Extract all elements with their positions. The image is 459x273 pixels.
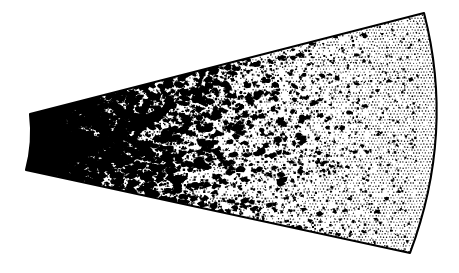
sector-wedge-figure: Sector scan density map Fan-shaped (annu… <box>0 0 459 273</box>
figure-root: Sector scan density map Fan-shaped (annu… <box>0 0 459 273</box>
